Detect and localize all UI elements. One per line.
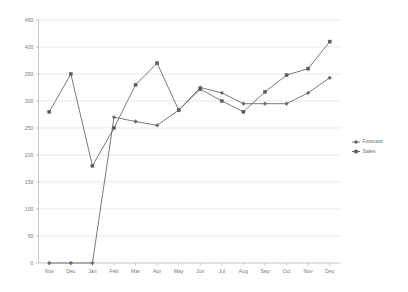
data-point-marker-diamond xyxy=(134,120,138,124)
data-point-marker-square xyxy=(156,62,159,65)
x-tick-label: Nov xyxy=(304,268,314,274)
data-point-marker-square xyxy=(242,110,245,113)
data-point-marker-square xyxy=(48,110,51,113)
data-point-marker-square xyxy=(307,67,310,70)
data-point-marker-diamond xyxy=(242,102,246,106)
data-point-marker-square xyxy=(199,88,202,91)
legend-label: Forecast xyxy=(363,138,384,144)
data-point-marker-diamond xyxy=(285,102,289,106)
y-tick-label: 250 xyxy=(25,125,34,131)
x-tick-label: Apr xyxy=(153,268,161,274)
x-tick-label: Dec xyxy=(325,268,335,274)
x-tick-label: Sep xyxy=(260,268,269,274)
x-tick-label: Jan xyxy=(88,268,96,274)
data-point-marker-square xyxy=(354,150,357,153)
legend-label: Sales xyxy=(363,148,376,154)
y-tick-label: 0 xyxy=(31,260,34,266)
chart-container: 050100150200250300350400450 NovDecJanFeb… xyxy=(0,0,408,292)
data-point-marker-square xyxy=(91,164,94,167)
series-forecast xyxy=(47,76,331,265)
y-tick-label: 50 xyxy=(28,233,34,239)
x-tick-label: Jul xyxy=(219,268,226,274)
data-point-marker-diamond xyxy=(91,261,95,265)
legend-item-forecast[interactable]: Forecast xyxy=(352,138,383,144)
data-point-marker-square xyxy=(177,109,180,112)
data-point-marker-square xyxy=(69,72,72,75)
data-point-marker-square xyxy=(112,126,115,129)
data-point-marker-diamond xyxy=(47,261,51,265)
y-tick-label: 450 xyxy=(25,17,34,23)
data-point-marker-diamond xyxy=(69,261,73,265)
x-tick-label: May xyxy=(174,268,184,274)
y-tick-label: 100 xyxy=(25,206,34,212)
x-tick-label: Dec xyxy=(66,268,76,274)
data-point-marker-square xyxy=(285,74,288,77)
line-chart: 050100150200250300350400450 NovDecJanFeb… xyxy=(0,0,408,292)
data-point-marker-square xyxy=(328,40,331,43)
x-tick-label: Aug xyxy=(239,268,248,274)
x-tick-label: Nov xyxy=(45,268,55,274)
y-tick-label: 150 xyxy=(25,179,34,185)
data-point-marker-diamond xyxy=(220,91,224,95)
data-point-marker-diamond xyxy=(263,102,267,106)
axes xyxy=(39,20,341,263)
y-tick-label: 300 xyxy=(25,98,34,104)
y-tick-label: 350 xyxy=(25,71,34,77)
y-axis-tick-labels: 050100150200250300350400450 xyxy=(25,17,39,266)
data-point-marker-square xyxy=(220,99,223,102)
y-tick-label: 200 xyxy=(25,152,34,158)
chart-legend: ForecastSales xyxy=(352,138,383,154)
data-point-marker-square xyxy=(263,90,266,93)
legend-item-sales[interactable]: Sales xyxy=(352,148,376,154)
data-point-marker-diamond xyxy=(354,140,358,144)
x-tick-label: Jun xyxy=(196,268,204,274)
data-point-marker-diamond xyxy=(112,115,116,119)
series-line xyxy=(49,78,329,263)
x-axis-tick-labels: NovDecJanFebMarAprMayJunJulAugSepOctNovD… xyxy=(45,263,335,274)
x-tick-label: Mar xyxy=(131,268,140,274)
x-tick-label: Oct xyxy=(283,268,292,274)
data-point-marker-square xyxy=(134,83,137,86)
y-tick-label: 400 xyxy=(25,44,34,50)
x-tick-label: Feb xyxy=(110,268,119,274)
